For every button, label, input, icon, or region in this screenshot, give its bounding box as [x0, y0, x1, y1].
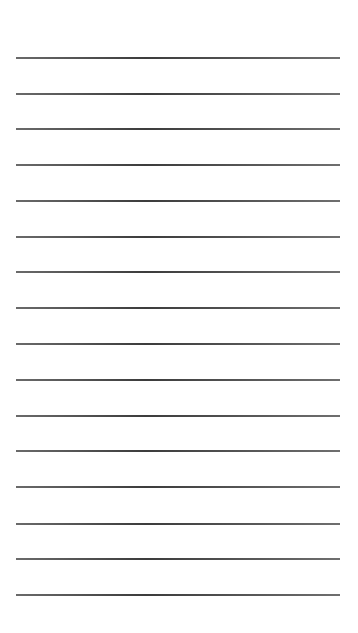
ruled-line: [16, 307, 340, 309]
ruled-line: [16, 93, 340, 95]
ruled-line: [16, 200, 340, 202]
ruled-line: [16, 558, 340, 560]
lined-paper-page: [0, 0, 358, 633]
ruled-line: [16, 128, 340, 130]
ruled-line: [16, 486, 340, 488]
ruled-line: [16, 450, 340, 452]
ruled-line: [16, 164, 340, 166]
ruled-line: [16, 415, 340, 417]
ruled-line: [16, 236, 340, 238]
ruled-line: [16, 57, 340, 59]
ruled-line: [16, 594, 340, 596]
ruled-line: [16, 379, 340, 381]
ruled-line: [16, 271, 340, 273]
ruled-line: [16, 523, 340, 525]
ruled-line: [16, 343, 340, 345]
